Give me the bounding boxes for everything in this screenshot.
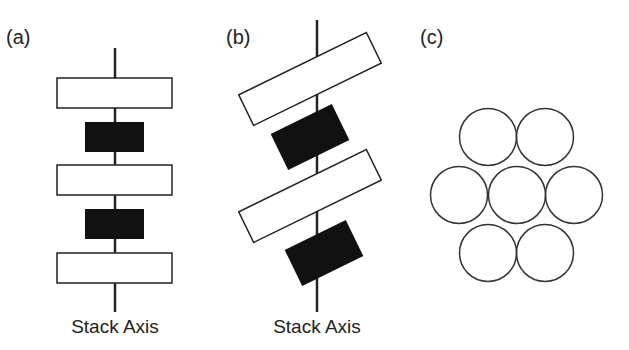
- circle: [431, 167, 488, 224]
- panel-c-label: (c): [420, 26, 443, 48]
- light-block-tilted: [239, 33, 382, 126]
- circle: [546, 167, 603, 224]
- stack-axis-caption-a: Stack Axis: [71, 316, 159, 337]
- dark-block-tilted: [285, 220, 364, 286]
- panel-a-label: (a): [6, 26, 30, 48]
- stack-axis-caption-b: Stack Axis: [273, 316, 361, 337]
- dark-block: [85, 122, 144, 152]
- panel-b-label: (b): [226, 26, 250, 48]
- light-block-tilted: [239, 150, 382, 243]
- circle: [460, 225, 517, 282]
- dark-block-tilted: [271, 104, 350, 170]
- dark-block: [85, 209, 144, 239]
- circle: [460, 109, 517, 166]
- panel-b: (b) Stack Axis: [226, 20, 381, 337]
- panel-c: (c): [420, 26, 603, 282]
- light-block: [57, 165, 172, 195]
- circle: [517, 225, 574, 282]
- diagram-canvas: (a) Stack Axis (b) Stack Axis (c): [0, 0, 629, 350]
- light-block: [57, 78, 172, 108]
- panel-a: (a) Stack Axis: [6, 26, 172, 337]
- light-block: [57, 253, 172, 283]
- circle: [489, 167, 546, 224]
- circle: [517, 109, 574, 166]
